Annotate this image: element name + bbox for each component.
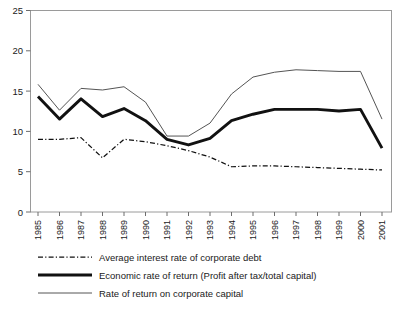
x-tick-label: 1991 xyxy=(162,220,172,240)
series-line-rate-of-return-corporate-capital xyxy=(38,70,382,136)
y-tick-label: 10 xyxy=(12,126,23,137)
y-tick-label: 5 xyxy=(18,166,23,177)
y-axis-tick-labels: 25 20 15 10 5 0 xyxy=(12,5,23,218)
x-tick-label: 2001 xyxy=(377,220,387,240)
x-tick-label: 1990 xyxy=(141,220,151,240)
line-chart: 25 20 15 10 5 0 198519861987198819891990… xyxy=(0,0,402,310)
x-tick-label: 1999 xyxy=(334,220,344,240)
legend-label-average-interest-rate: Average interest rate of corporate debt xyxy=(99,252,262,263)
x-tick-label: 1986 xyxy=(55,220,65,240)
x-tick-label: 1994 xyxy=(227,220,237,240)
x-tick-label: 1985 xyxy=(33,220,43,240)
x-axis-tick-labels: 1985198619871988198919901991199219931994… xyxy=(33,212,387,240)
x-tick-label: 1987 xyxy=(76,220,86,240)
y-tick-label: 25 xyxy=(12,5,23,16)
legend-label-rate-of-return-corporate-capital: Rate of return on corporate capital xyxy=(99,288,243,299)
chart-legend: Average interest rate of corporate debt … xyxy=(38,252,317,299)
legend-label-economic-rate-of-return: Economic rate of return (Profit after ta… xyxy=(99,270,317,281)
x-tick-label: 1995 xyxy=(248,220,258,240)
x-tick-label: 1998 xyxy=(313,220,323,240)
y-tick-label: 20 xyxy=(12,45,23,56)
x-tick-label: 2000 xyxy=(356,220,366,240)
x-tick-label: 1992 xyxy=(184,220,194,240)
x-tick-label: 1997 xyxy=(291,220,301,240)
x-tick-label: 1996 xyxy=(270,220,280,240)
y-tick-label: 0 xyxy=(18,207,23,218)
series-line-average-interest-rate xyxy=(38,138,382,170)
x-tick-label: 1989 xyxy=(119,220,129,240)
x-tick-label: 1993 xyxy=(205,220,215,240)
y-axis-ticks xyxy=(26,11,31,213)
x-tick-label: 1988 xyxy=(98,220,108,240)
chart-figure: 25 20 15 10 5 0 198519861987198819891990… xyxy=(0,0,402,310)
y-tick-label: 15 xyxy=(12,86,23,97)
